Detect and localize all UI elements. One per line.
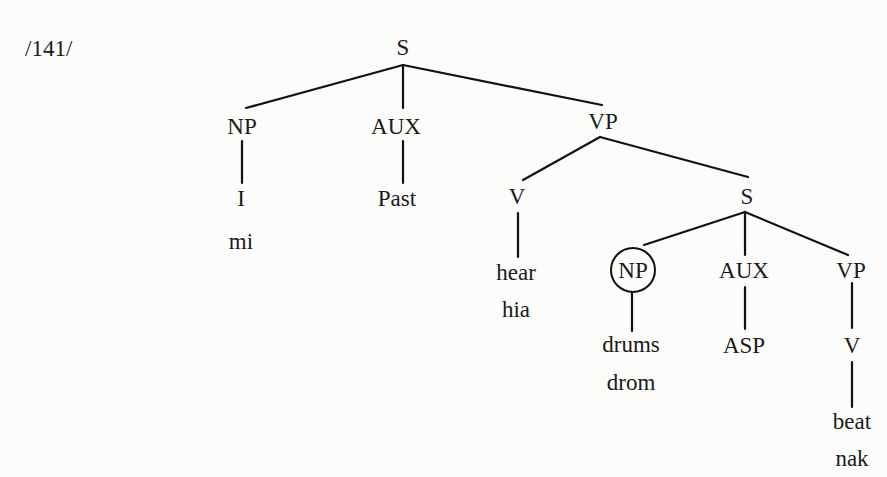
node-np-subject: NP [227,115,256,138]
node-v-hear: V [509,185,526,208]
gloss-hia: hia [502,298,530,321]
word-past: Past [378,187,416,210]
node-s-embedded: S [741,185,754,208]
gloss-drom: drom [607,371,656,394]
node-vp-main: VP [588,110,617,133]
tree-edges [0,0,887,477]
word-hear: hear [496,261,536,284]
gloss-nak: nak [835,447,868,470]
word-i: I [237,187,245,210]
node-aux-embedded: AUX [719,259,769,282]
gloss-mi: mi [229,230,253,253]
word-beat: beat [833,410,871,433]
node-v-beat: V [844,334,861,357]
node-vp-embedded: VP [836,259,865,282]
word-asp: ASP [723,334,765,357]
node-aux-main: AUX [371,115,421,138]
node-s-root: S [397,36,410,59]
word-drums: drums [602,333,660,356]
node-np-circled: NP [618,259,647,282]
